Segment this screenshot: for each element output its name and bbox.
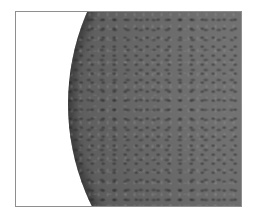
image-frame (15, 11, 242, 207)
sphere-surface-texture (68, 11, 242, 207)
textured-sphere (68, 11, 242, 207)
